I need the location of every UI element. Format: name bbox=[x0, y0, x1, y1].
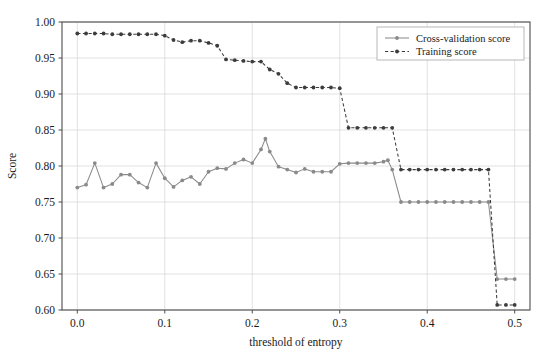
x-tick-label: 0.1 bbox=[158, 317, 173, 329]
y-tick-label: 0.75 bbox=[35, 196, 55, 208]
y-tick-label: 0.70 bbox=[35, 232, 55, 244]
y-tick-label: 0.65 bbox=[35, 268, 55, 280]
y-tick-label: 0.80 bbox=[35, 160, 55, 172]
chart-legend: Cross-validation scoreTraining score bbox=[377, 27, 524, 60]
y-tick-label: 1.00 bbox=[35, 16, 55, 28]
x-tick-label: 0.0 bbox=[70, 317, 85, 329]
legend-marker-2 bbox=[395, 50, 399, 54]
y-axis-title: Score bbox=[6, 153, 18, 179]
x-tick-label: 0.5 bbox=[508, 317, 523, 329]
legend-marker-1 bbox=[395, 36, 399, 40]
x-axis-title: threshold of entropy bbox=[249, 336, 343, 349]
chart-figure: 0.00.10.20.30.40.50.600.650.700.750.800.… bbox=[0, 0, 550, 358]
y-tick-label: 0.90 bbox=[35, 88, 55, 100]
y-tick-label: 0.85 bbox=[35, 124, 55, 136]
x-tick-label: 0.2 bbox=[245, 317, 260, 329]
x-tick-label: 0.4 bbox=[420, 317, 435, 329]
x-tick-label: 0.3 bbox=[333, 317, 348, 329]
legend-label-2: Training score bbox=[416, 46, 477, 57]
legend-label-1: Cross-validation score bbox=[416, 33, 511, 44]
validation-curve-plot: 0.00.10.20.30.40.50.600.650.700.750.800.… bbox=[0, 0, 550, 358]
y-tick-label: 0.95 bbox=[35, 52, 55, 64]
y-tick-label: 0.60 bbox=[35, 304, 55, 316]
